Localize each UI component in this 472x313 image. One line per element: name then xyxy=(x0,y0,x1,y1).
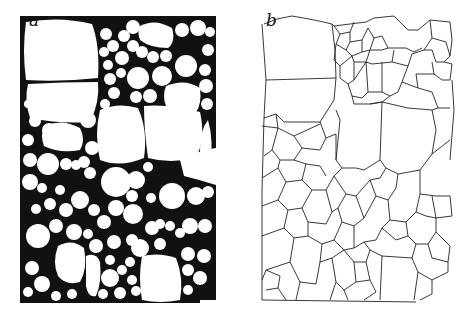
panel-a-label: a xyxy=(29,12,39,29)
panel-a-foam-image: a xyxy=(0,0,236,313)
panel-b-network-image: b xyxy=(236,0,472,313)
panel-b-label: b xyxy=(266,12,277,29)
foam-drawing xyxy=(0,0,236,313)
cell-boundary-network xyxy=(236,0,472,313)
